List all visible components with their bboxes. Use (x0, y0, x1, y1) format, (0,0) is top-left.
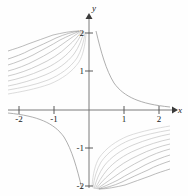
curve-q2-4 (8, 31, 83, 81)
y-tick-label-2: 2 (74, 29, 84, 38)
x-tick-label--1: -1 (47, 115, 61, 124)
curve-q4-8 (99, 161, 170, 189)
x-tick-label--2: -2 (12, 115, 26, 124)
curve-q1-main (96, 31, 170, 107)
curve-q2-9 (8, 31, 79, 51)
y-axis-arrowhead (86, 13, 93, 19)
y-axis-label: y (92, 4, 96, 13)
curve-group-quadrant-ii (8, 31, 86, 94)
hyperbola-family-figure: y x -2 -1 1 2 2 1 -1 -2 (0, 0, 188, 196)
curve-q4-4 (95, 139, 170, 189)
curve-q4-9 (99, 169, 170, 189)
curve-q2-1 (8, 34, 86, 94)
curve-q2-8 (8, 31, 79, 59)
y-tick-label-1: 1 (74, 67, 84, 76)
curve-group-quadrant-iv (92, 126, 170, 189)
x-tick-label-2: 2 (154, 115, 164, 124)
curve-q4-1 (92, 126, 170, 186)
curve-q2-3 (8, 31, 84, 86)
x-tick-label-1: 1 (119, 115, 129, 124)
y-tick-label--1: -1 (69, 144, 84, 153)
curve-q4-3 (94, 134, 170, 189)
y-tick-label--2: -2 (69, 182, 84, 191)
x-axis-label: x (178, 106, 182, 115)
plot-canvas (0, 0, 188, 196)
